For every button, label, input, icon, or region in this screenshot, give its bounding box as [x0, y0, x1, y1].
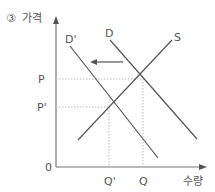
tick-Q-prime: Q'	[104, 175, 116, 188]
y-axis-arrow-icon	[53, 16, 59, 24]
y-axis-label: 가격	[22, 12, 42, 25]
shift-arrow-icon	[90, 59, 123, 65]
x-axis-arrow-icon	[199, 164, 207, 170]
x-axis-label: 수량	[183, 175, 203, 188]
tick-P: P	[38, 73, 45, 86]
origin-label: 0	[45, 161, 52, 174]
label-S: S	[174, 31, 181, 44]
label-D: D	[105, 27, 113, 40]
supply-demand-chart: ③ 가격 D D' S P P' 0 Q' Q 수량	[0, 0, 215, 192]
supply-curve-S	[78, 40, 172, 140]
demand-curve-D	[110, 40, 197, 139]
panel-number: ③	[6, 12, 16, 25]
label-D-prime: D'	[65, 33, 77, 46]
tick-Q: Q	[139, 175, 148, 188]
tick-P-prime: P'	[37, 101, 47, 114]
